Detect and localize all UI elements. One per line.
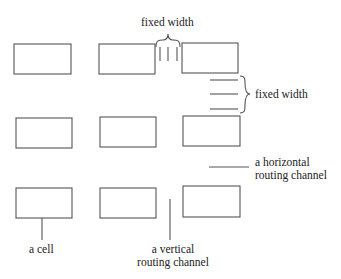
cell-r2c1 (16, 118, 72, 148)
cell-r1c2 (99, 44, 155, 74)
label-horizontal-channel-line1: a horizontal (255, 156, 327, 169)
top-brace-icon (156, 34, 180, 47)
label-vertical-channel: a vertical routing channel (128, 243, 218, 269)
label-fixed-width-top: fixed width (141, 16, 194, 29)
right-brace-icon (240, 76, 250, 113)
label-vertical-channel-line2: routing channel (128, 256, 218, 269)
label-horizontal-channel-line2: routing channel (255, 169, 327, 182)
cell-r1c3 (182, 43, 238, 73)
label-vertical-channel-line1: a vertical (128, 243, 218, 256)
vertical-tracks (160, 47, 177, 61)
cell-r2c3 (183, 116, 240, 146)
label-fixed-width-right: fixed width (255, 88, 308, 101)
cell-r3c3 (183, 186, 240, 217)
cell-r3c2 (100, 188, 156, 218)
diagram-canvas (0, 0, 341, 279)
cell-r2c2 (100, 117, 156, 147)
horizontal-tracks (210, 80, 238, 109)
label-horizontal-channel: a horizontal routing channel (255, 156, 327, 182)
cell-r3c1 (16, 188, 72, 218)
label-cell: a cell (29, 243, 54, 256)
cell-r1c1 (14, 44, 71, 74)
